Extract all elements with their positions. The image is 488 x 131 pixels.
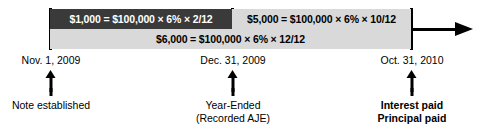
note-interest-timeline-diagram: $1,000 = $100,000 × 6% × 2/12 $5,000 = $… xyxy=(0,0,488,131)
caption-stub-maturity xyxy=(411,88,414,96)
caption-line: Interest paid xyxy=(378,99,447,112)
caption-year-ended: Year-Ended (Recorded AJE) xyxy=(196,99,270,125)
caption-maturity: Interest paid Principal paid xyxy=(378,99,447,125)
caption-stub-year-ended xyxy=(232,88,235,96)
date-label-note-established: Nov. 1, 2009 xyxy=(22,54,81,66)
date-label-year-ended: Dec. 31, 2009 xyxy=(200,54,265,66)
bar-total-interest: $6,000 = $100,000 × 6% × 12/12 xyxy=(50,29,411,49)
date-label-maturity: Oct. 31, 2010 xyxy=(380,54,443,66)
caption-line: Principal paid xyxy=(378,112,447,125)
caption-line: Note established xyxy=(12,99,90,112)
caption-line: Year-Ended xyxy=(196,99,270,112)
timeline-arrow-icon xyxy=(455,22,473,36)
caption-note-established: Note established xyxy=(12,99,90,112)
bar-accrued-interest-2009: $1,000 = $100,000 × 6% × 2/12 xyxy=(50,9,232,29)
caption-line: (Recorded AJE) xyxy=(196,112,270,125)
caption-stub-note-established xyxy=(50,88,53,96)
bar-interest-2010: $5,000 = $100,000 × 6% × 10/12 xyxy=(232,9,411,29)
